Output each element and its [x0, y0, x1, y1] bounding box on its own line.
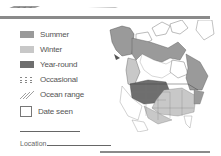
legend-occasional: Occasional: [20, 72, 84, 87]
diagonal-hatch-icon: [20, 91, 34, 99]
legend-winter: Winter: [20, 42, 84, 57]
location-label: Location: [20, 140, 46, 147]
legend-label: Year-round: [40, 60, 77, 69]
location-entry-line[interactable]: [47, 145, 111, 146]
date-seen-checkbox[interactable]: [20, 106, 32, 117]
legend-label: Ocean range: [40, 90, 84, 99]
date-seen-label: Date seen: [38, 107, 73, 116]
range-map: [108, 20, 220, 132]
legend-label: Winter: [40, 45, 62, 54]
feather-illustration: [0, 0, 221, 8]
legend-ocean-range: Ocean range: [20, 87, 84, 102]
legend-label: Summer: [40, 30, 69, 39]
legend-year-round: Year-round: [20, 57, 84, 72]
year-round-swatch-icon: [20, 61, 34, 68]
dotted-grid-icon: [20, 77, 34, 83]
date-seen-row: Date seen: [20, 104, 84, 119]
legend-label: Occasional: [40, 75, 78, 84]
header-divider: [0, 16, 210, 19]
winter-swatch-icon: [20, 46, 34, 53]
legend-summer: Summer: [20, 27, 84, 42]
map-legend: Summer Winter Year-round Occasional Ocea…: [20, 27, 84, 119]
footer-divider: [100, 151, 210, 153]
summer-swatch-icon: [20, 31, 34, 38]
date-entry-line[interactable]: [20, 131, 80, 132]
location-field: Location: [20, 140, 111, 147]
